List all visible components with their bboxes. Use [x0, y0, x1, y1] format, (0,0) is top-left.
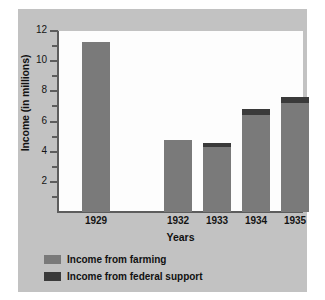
y-axis-title: Income (in millions) — [19, 23, 31, 183]
legend-item[interactable]: Income from farming — [44, 252, 284, 267]
legend-swatch — [44, 272, 61, 281]
bar-group[interactable] — [164, 140, 192, 212]
bar-segment-farming[interactable] — [82, 42, 110, 212]
y-axis-minor-tick — [0, 196, 58, 198]
tick-mark — [50, 121, 58, 123]
x-axis-tick-label: 1933 — [195, 215, 239, 227]
tick-mark — [50, 90, 58, 92]
bars-layer — [58, 31, 303, 212]
chart-figure: 24681012 Income (in millions) 1929193219… — [0, 0, 325, 300]
x-axis-tick-label: 1932 — [156, 215, 200, 227]
tick-mark — [50, 181, 58, 183]
legend-label: Income from federal support — [67, 271, 203, 282]
bar-group[interactable] — [82, 42, 110, 212]
bar-group[interactable] — [242, 109, 270, 212]
x-axis-tick-label: 1929 — [74, 215, 118, 227]
bar-segment-farming[interactable] — [242, 115, 270, 212]
bar-segment-farming[interactable] — [164, 140, 192, 212]
x-axis-tick-label: 1935 — [273, 215, 317, 227]
legend-swatch — [44, 255, 61, 264]
tick-mark — [50, 151, 58, 153]
bar-segment-farming[interactable] — [203, 147, 231, 212]
x-axis-title: Years — [58, 231, 303, 243]
x-axis-tick-label: 1934 — [234, 215, 278, 227]
legend-item[interactable]: Income from federal support — [44, 269, 284, 284]
bar-group[interactable] — [203, 143, 231, 212]
chart-legend: Income from farmingIncome from federal s… — [44, 252, 284, 286]
tick-mark — [50, 60, 58, 62]
legend-label: Income from farming — [67, 254, 166, 265]
x-axis-tick-labels: 19291932193319341935 — [58, 215, 303, 229]
tick-mark — [50, 30, 58, 32]
bar-group[interactable] — [281, 97, 309, 212]
bar-segment-farming[interactable] — [281, 103, 309, 212]
